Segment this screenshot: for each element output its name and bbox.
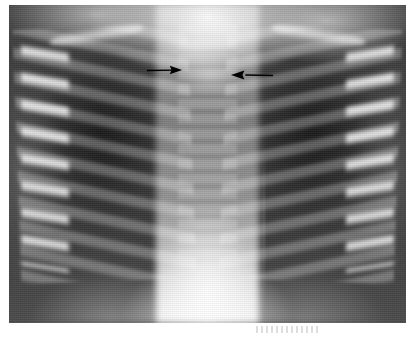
vertical-scan-streak <box>263 132 265 316</box>
diaphragm-and-upper-abdomen <box>9 228 406 323</box>
figure-caption <box>0 0 1 1</box>
scan-edge-artifact <box>256 326 320 333</box>
page-root <box>0 0 414 337</box>
chest-radiograph-image <box>9 5 406 323</box>
